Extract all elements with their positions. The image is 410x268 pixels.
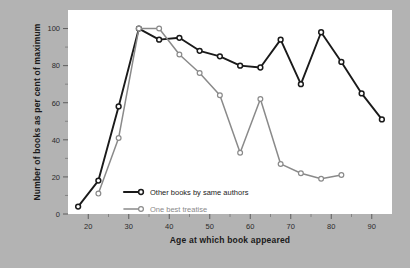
x-axis-title: Age at which book appeared <box>170 235 290 245</box>
data-point <box>217 54 222 59</box>
data-point <box>197 71 202 76</box>
data-point <box>359 91 364 96</box>
data-point <box>116 104 121 109</box>
x-tick-label: 60 <box>246 222 254 231</box>
data-point <box>157 37 162 42</box>
y-tick-label: 20 <box>52 173 60 182</box>
legend-label: Other books by same authors <box>150 188 249 197</box>
data-point <box>319 30 324 35</box>
legend-swatch-marker <box>139 190 144 195</box>
y-tick-label: 0 <box>56 210 60 219</box>
data-point <box>298 171 303 176</box>
data-point <box>379 117 384 122</box>
data-point <box>76 204 81 209</box>
data-point <box>238 63 243 68</box>
y-tick-label: 100 <box>47 24 60 33</box>
data-point <box>258 97 263 102</box>
x-tick-label: 70 <box>287 222 295 231</box>
data-point <box>96 178 101 183</box>
data-point <box>258 65 263 70</box>
x-tick-label: 40 <box>165 222 173 231</box>
data-point <box>177 35 182 40</box>
data-point <box>339 60 344 65</box>
data-point <box>278 37 283 42</box>
data-point <box>298 82 303 87</box>
data-point <box>238 150 243 155</box>
data-point <box>339 173 344 178</box>
x-tick-label: 30 <box>125 222 133 231</box>
line-chart: 2030405060708090 020406080100 Age at whi… <box>0 0 410 268</box>
y-tick-label: 60 <box>52 99 60 108</box>
x-tick-label: 50 <box>206 222 214 231</box>
x-tick-label: 80 <box>327 222 335 231</box>
y-tick-label: 40 <box>52 136 60 145</box>
data-point <box>116 136 121 141</box>
x-tick-label: 20 <box>84 222 92 231</box>
y-axis-title: Number of books as per cent of maximum <box>32 23 42 200</box>
legend-label: One best treatise <box>150 205 207 214</box>
data-point <box>319 176 324 181</box>
data-point <box>96 191 101 196</box>
data-point <box>217 93 222 98</box>
x-tick-label: 90 <box>368 222 376 231</box>
legend-swatch-marker <box>139 207 144 212</box>
chart-figure: 2030405060708090 020406080100 Age at whi… <box>0 0 410 268</box>
data-point <box>197 48 202 53</box>
y-tick-label: 80 <box>52 61 60 70</box>
data-point <box>157 26 162 31</box>
data-point <box>177 52 182 57</box>
data-point <box>136 26 141 31</box>
data-point <box>278 162 283 167</box>
